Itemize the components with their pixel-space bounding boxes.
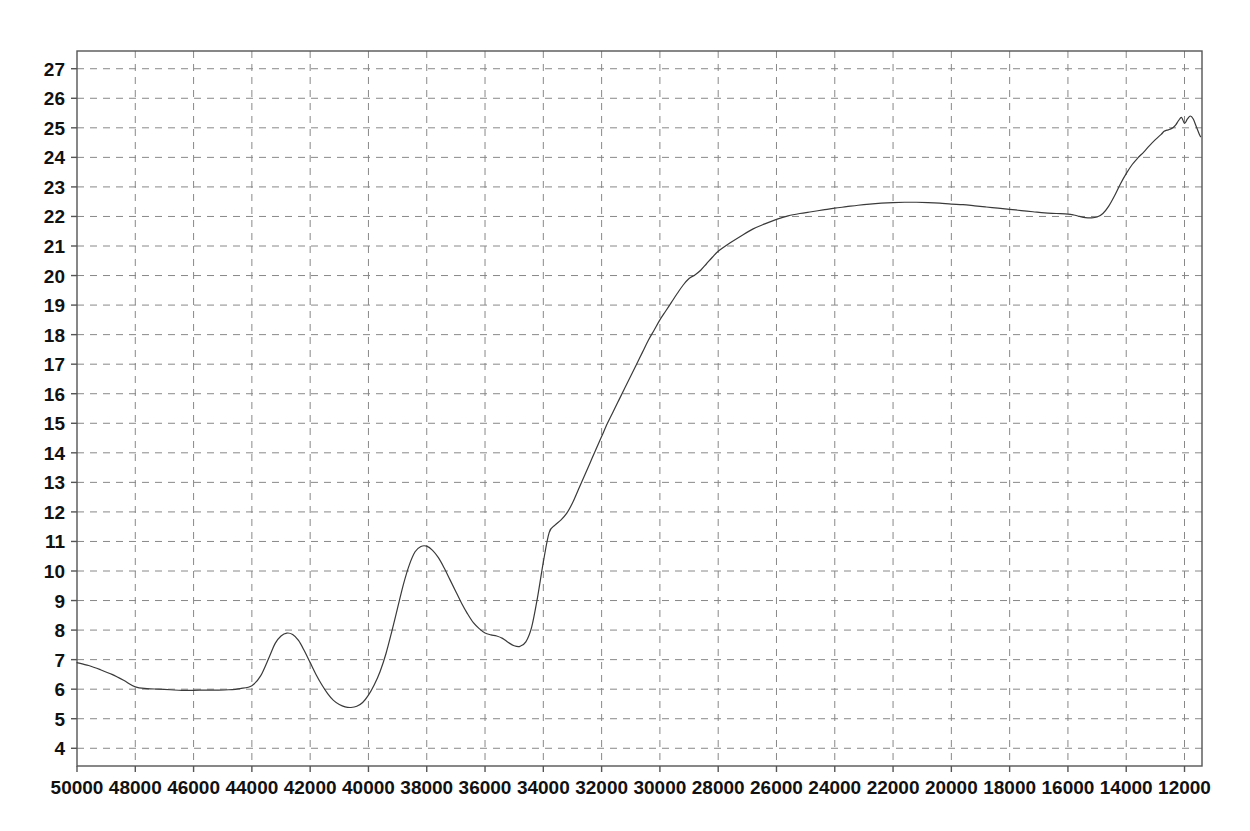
y-axis-tick-label: 9 (54, 591, 65, 612)
y-axis-tick-label: 26 (44, 88, 65, 109)
x-axis-tick-label: 40000 (342, 777, 395, 798)
y-axis-tick-label: 4 (54, 738, 65, 759)
y-axis-tick-label: 8 (54, 620, 65, 641)
x-axis-tick-labels: 5000048000460004400042000400003800036000… (51, 777, 1211, 798)
y-axis-tick-label: 25 (44, 118, 66, 139)
x-axis-tick-label: 42000 (284, 777, 337, 798)
y-axis-tick-label: 10 (44, 561, 65, 582)
y-axis-tick-label: 18 (44, 325, 65, 346)
x-axis-tick-label: 24000 (808, 777, 861, 798)
y-axis-tick-label: 27 (44, 59, 65, 80)
y-axis-tick-label: 20 (44, 266, 65, 287)
y-axis-tick-label: 13 (44, 472, 65, 493)
x-axis-tick-label: 16000 (1042, 777, 1095, 798)
y-axis-tick-label: 16 (44, 384, 65, 405)
x-axis-tick-label: 28000 (692, 777, 745, 798)
plot-border (77, 51, 1202, 766)
x-axis-tick-label: 34000 (517, 777, 570, 798)
line-chart: 4567891011121314151617181920212223242526… (0, 0, 1250, 831)
y-axis-tick-label: 7 (54, 650, 65, 671)
x-axis-tick-label: 14000 (1100, 777, 1153, 798)
x-axis-tick-label: 22000 (867, 777, 920, 798)
y-axis-tick-label: 6 (54, 679, 65, 700)
y-axis-tick-label: 11 (45, 531, 66, 552)
x-axis-tick-label: 32000 (575, 777, 628, 798)
y-axis-tick-labels: 4567891011121314151617181920212223242526… (44, 59, 66, 760)
x-axis-tick-label: 36000 (459, 777, 512, 798)
x-axis-tick-label: 12000 (1158, 777, 1211, 798)
plot-frame (71, 51, 1202, 772)
data-line (77, 116, 1201, 708)
y-axis-tick-label: 24 (44, 147, 66, 168)
y-axis-tick-label: 14 (44, 443, 66, 464)
y-axis-tick-label: 15 (44, 413, 66, 434)
y-axis-tick-label: 5 (54, 709, 65, 730)
x-axis-tick-label: 30000 (633, 777, 686, 798)
x-axis-tick-label: 26000 (750, 777, 803, 798)
y-axis-tick-label: 19 (44, 295, 65, 316)
y-axis-tick-label: 17 (44, 354, 65, 375)
x-axis-tick-label: 18000 (983, 777, 1036, 798)
x-axis-tick-label: 20000 (925, 777, 978, 798)
y-axis-tick-label: 12 (44, 502, 65, 523)
grid-layer (77, 51, 1202, 766)
data-series-layer (77, 116, 1201, 708)
y-axis-tick-label: 23 (44, 177, 65, 198)
x-axis-tick-label: 48000 (109, 777, 162, 798)
y-axis-tick-label: 21 (44, 236, 66, 257)
x-axis-tick-label: 50000 (51, 777, 104, 798)
x-axis-tick-label: 44000 (225, 777, 278, 798)
y-axis-tick-label: 22 (44, 206, 65, 227)
chart-canvas: 4567891011121314151617181920212223242526… (0, 0, 1250, 831)
x-axis-tick-label: 38000 (400, 777, 453, 798)
x-axis-tick-label: 46000 (167, 777, 220, 798)
